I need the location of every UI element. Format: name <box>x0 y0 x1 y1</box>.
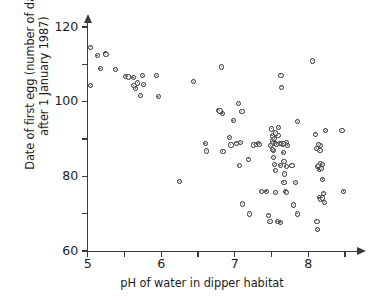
y-tick-mark <box>82 26 88 27</box>
y-axis-arrow-icon <box>84 14 92 23</box>
x-axis-arrow-icon <box>357 247 366 255</box>
x-tick-mark <box>197 251 198 257</box>
x-tick-label: 6 <box>151 256 171 271</box>
data-point <box>279 85 284 90</box>
data-point <box>257 142 262 147</box>
x-tick-label: 7 <box>225 256 245 271</box>
y-tick-mark <box>82 176 88 177</box>
data-point <box>314 219 319 224</box>
data-point <box>204 148 209 153</box>
data-point <box>321 191 326 196</box>
x-tick-mark <box>271 251 272 257</box>
data-point <box>278 163 283 168</box>
data-point <box>239 109 244 114</box>
y-tick-mark <box>82 138 88 139</box>
data-point <box>237 163 242 168</box>
data-point <box>259 189 264 194</box>
data-point <box>133 86 138 91</box>
data-point <box>289 163 294 168</box>
x-tick-label: 8 <box>298 256 318 271</box>
data-point <box>284 190 289 195</box>
data-point <box>140 73 145 78</box>
data-point <box>135 80 140 85</box>
data-point <box>103 52 108 57</box>
data-point <box>272 136 277 141</box>
data-point <box>271 155 276 160</box>
data-point <box>246 157 251 162</box>
y-tick-label: 80 <box>44 168 78 183</box>
x-tick-mark <box>124 251 125 257</box>
data-point <box>282 171 287 176</box>
data-point <box>281 180 286 185</box>
data-point <box>131 75 136 80</box>
data-point <box>95 53 100 58</box>
data-point <box>295 119 300 124</box>
data-point <box>278 220 283 225</box>
data-point <box>236 101 241 106</box>
data-point <box>219 64 224 69</box>
data-point <box>273 190 278 195</box>
data-point <box>88 83 93 88</box>
data-point <box>156 94 161 99</box>
data-point <box>264 189 269 194</box>
data-point <box>310 58 315 63</box>
data-point <box>339 128 344 133</box>
data-point <box>341 189 346 194</box>
data-point <box>323 128 328 133</box>
data-point <box>154 73 159 78</box>
data-point <box>295 211 300 216</box>
data-point <box>231 118 236 123</box>
data-point <box>247 211 252 216</box>
data-point <box>228 142 233 147</box>
y-tick-label: 120 <box>44 19 78 34</box>
data-point <box>281 150 286 155</box>
y-tick-mark <box>82 213 88 214</box>
data-point <box>138 93 143 98</box>
data-point <box>320 177 325 182</box>
y-axis-line <box>87 22 88 251</box>
data-point <box>234 141 239 146</box>
data-point <box>273 168 278 173</box>
data-point <box>191 79 196 84</box>
data-point <box>284 164 289 169</box>
y-tick-mark <box>82 64 88 65</box>
x-axis-label: pH of water in dipper habitat <box>0 276 376 290</box>
data-point <box>313 132 318 137</box>
y-tick-label: 60 <box>44 243 78 258</box>
data-point <box>220 149 225 154</box>
data-point <box>272 162 277 167</box>
data-point <box>98 66 103 71</box>
data-point <box>270 147 275 152</box>
data-point <box>278 73 283 78</box>
y-tick-mark <box>82 101 88 102</box>
data-point <box>126 74 131 79</box>
data-point <box>203 141 208 146</box>
data-point <box>317 148 322 153</box>
data-point <box>267 219 272 224</box>
data-point <box>113 67 118 72</box>
data-point <box>315 227 320 232</box>
x-axis-line <box>87 251 358 252</box>
data-point <box>88 45 93 50</box>
data-point <box>177 179 182 184</box>
scatter-plot-figure: Date of first egg (number of days after … <box>0 0 376 303</box>
data-point <box>291 202 296 207</box>
data-point <box>141 82 146 87</box>
data-point <box>227 135 232 140</box>
data-point <box>281 141 286 146</box>
data-point <box>266 213 271 218</box>
data-point <box>320 162 325 167</box>
data-point <box>240 201 245 206</box>
x-tick-mark <box>344 251 345 257</box>
y-tick-label: 100 <box>44 93 78 108</box>
x-tick-label: 5 <box>78 256 98 271</box>
data-point <box>293 180 298 185</box>
data-point <box>322 200 327 205</box>
data-point <box>220 111 225 116</box>
